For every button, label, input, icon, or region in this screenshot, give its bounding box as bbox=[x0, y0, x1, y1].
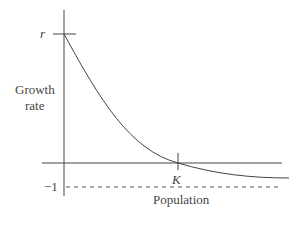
growth-curve bbox=[64, 34, 289, 178]
y-axis-title-line2: rate bbox=[25, 98, 44, 114]
y-axis-title-line1: Growth bbox=[15, 82, 55, 98]
k-tick-label: K bbox=[172, 172, 181, 188]
x-axis-title: Population bbox=[153, 192, 209, 208]
r-tick-label: r bbox=[40, 26, 45, 42]
neg-one-tick-label: −1 bbox=[44, 179, 58, 195]
